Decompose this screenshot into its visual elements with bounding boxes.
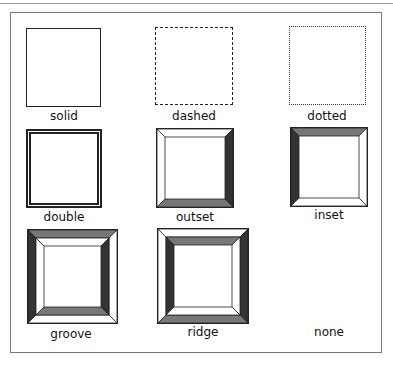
ridge-label: ridge [143, 325, 263, 339]
ridge-border-box [157, 228, 249, 324]
double-label: double [4, 210, 124, 224]
dashed-label: dashed [134, 109, 254, 123]
ridge-bevel [158, 229, 248, 323]
outset-label: outset [135, 210, 255, 224]
window-top-edge [0, 0, 393, 4]
groove-border-box [27, 229, 118, 324]
solid-border-box [26, 28, 101, 107]
groove-bevel [28, 230, 117, 323]
inset-label: inset [269, 208, 389, 222]
dotted-border-box [289, 26, 366, 105]
groove-label: groove [11, 327, 131, 341]
solid-label: solid [4, 109, 124, 123]
inset-bevel [291, 128, 367, 206]
dashed-border-box [155, 27, 233, 105]
none-label: none [269, 325, 389, 339]
dotted-label: dotted [267, 109, 387, 123]
outset-border-box [156, 128, 234, 208]
outset-bevel [157, 129, 233, 207]
double-border-box [26, 129, 102, 208]
inset-border-box [290, 127, 368, 207]
